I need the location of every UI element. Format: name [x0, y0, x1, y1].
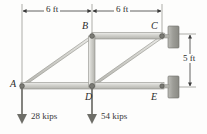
joint-label-d: D	[85, 92, 92, 102]
member-b-d	[89, 36, 96, 87]
joint-label-c: C	[151, 21, 158, 31]
joint-label-b: B	[82, 21, 88, 31]
joint-pin-a	[20, 84, 25, 89]
dimension-label-span-ad: 6 ft	[44, 5, 60, 14]
joint-pin-c	[160, 34, 165, 39]
wall-support-e	[168, 76, 179, 98]
joint-pin-e	[160, 84, 164, 88]
dimension-label-height-ce: 5 ft	[181, 54, 197, 63]
member-b-c	[92, 33, 163, 40]
load-label-a: 28 kips	[31, 112, 57, 121]
dimension-label-span-de: 6 ft	[114, 5, 130, 14]
joint-pin-d	[89, 83, 94, 88]
member-d-e	[92, 83, 164, 90]
wall-support-c	[168, 26, 179, 48]
member-d-c	[90, 33, 165, 89]
member-a-b	[20, 33, 95, 89]
truss-diagram: A B C D E 6 ft 6 ft 5 ft 28 kips 54 kips	[0, 0, 207, 134]
joint-label-a: A	[10, 79, 16, 89]
member-a-d	[21, 83, 93, 90]
truss-members	[20, 33, 165, 90]
joint-pin-b	[90, 34, 95, 39]
load-label-d: 54 kips	[101, 112, 127, 121]
joint-label-e: E	[151, 92, 157, 102]
